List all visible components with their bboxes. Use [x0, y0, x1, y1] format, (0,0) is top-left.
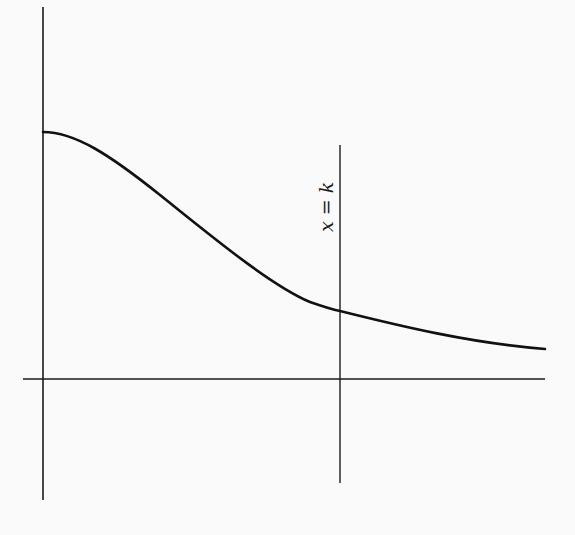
- function-graph: x = k: [0, 0, 575, 535]
- function-curve: [43, 132, 545, 349]
- line-label: x = k: [315, 182, 337, 232]
